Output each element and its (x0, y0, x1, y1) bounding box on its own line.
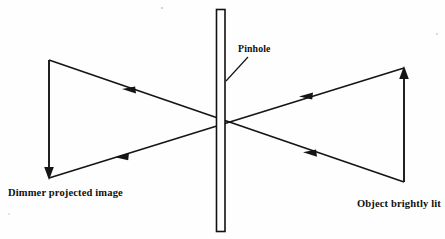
label-pinhole: Pinhole (238, 43, 271, 54)
ray-object-top-to-image-bottom (49, 68, 404, 178)
ray-direction-arrow-lower-right (303, 150, 317, 157)
label-dimmer-projected-image: Dimmer projected image (8, 187, 123, 198)
pinhole-ray-diagram-canvas: Pinhole Dimmer projected image Object br… (0, 0, 445, 239)
object-arrow (399, 66, 409, 182)
pinhole-leader-line (226, 57, 248, 81)
label-object-brightly-lit: Object brightly lit (357, 198, 441, 209)
object-arrow-head-up (399, 66, 409, 79)
ray-object-base-to-image-top (49, 60, 404, 182)
pinhole-diagram: Pinhole Dimmer projected image Object br… (0, 0, 445, 239)
pinhole-barrier (217, 10, 226, 232)
ray-direction-arrow-lower-left (115, 153, 129, 160)
image-arrow-head-down (44, 167, 54, 180)
projected-image-arrow (44, 60, 54, 180)
